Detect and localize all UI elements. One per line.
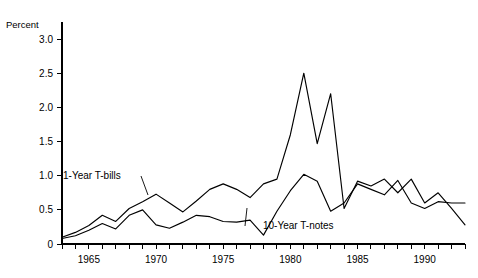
leader-line-10-year-t-notes [245, 208, 247, 226]
y-tick-label: 0 [47, 239, 53, 250]
y-tick-label: 1.5 [39, 136, 53, 147]
x-axis: 196519701975198019851990 [62, 244, 465, 265]
y-axis: 00.51.01.52.02.53.0 [39, 22, 62, 250]
y-tick-label: 2.0 [39, 102, 53, 113]
series-label-10-year-t-notes: 10-Year T-notes [263, 220, 334, 231]
chart-figure: 00.51.01.52.02.53.0 19651970197519801985… [0, 0, 478, 278]
x-tick-label: 1985 [346, 254, 369, 265]
leader-line-1-year-t-bills [141, 176, 148, 195]
interest-rate-line-chart: 00.51.01.52.02.53.0 19651970197519801985… [0, 0, 478, 278]
x-tick-label: 1990 [414, 254, 437, 265]
x-tick-label: 1975 [212, 254, 235, 265]
x-tick-label: 1970 [145, 254, 168, 265]
y-tick-label: 3.0 [39, 34, 53, 45]
x-tick-label: 1965 [78, 254, 101, 265]
series-label-1-year-t-bills: 1-Year T-bills [63, 170, 121, 181]
y-tick-label: 0.5 [39, 204, 53, 215]
x-tick-label: 1980 [279, 254, 302, 265]
y-axis-title: Percent [6, 19, 39, 30]
data-series-group [62, 73, 465, 238]
y-tick-label: 1.0 [39, 170, 53, 181]
series-annotations: 1-Year T-bills10-Year T-notes [63, 170, 334, 231]
y-tick-label: 2.5 [39, 68, 53, 79]
series-line-1-year-t-bills [62, 73, 465, 237]
